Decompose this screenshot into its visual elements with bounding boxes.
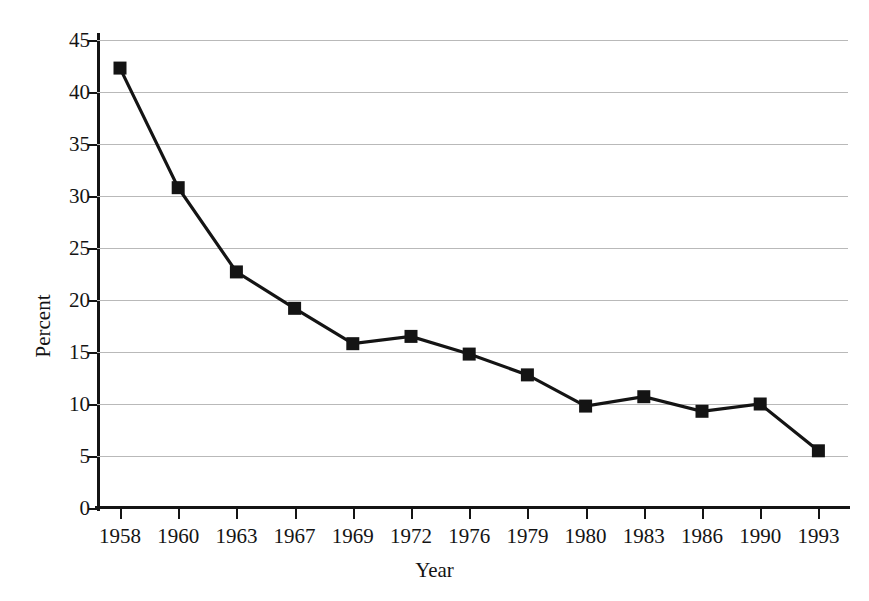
line-chart: Percent 05101520253035404519581960196319… bbox=[0, 0, 869, 601]
x-axis-tick-label: 1960 bbox=[157, 526, 199, 547]
data-point-marker bbox=[288, 302, 301, 315]
x-axis-tick-mark bbox=[353, 508, 355, 519]
data-point-marker bbox=[230, 265, 243, 278]
data-line bbox=[120, 68, 818, 451]
y-axis-tick-label: 10 bbox=[69, 394, 90, 415]
data-point-marker bbox=[812, 444, 825, 457]
x-axis-tick-label: 1963 bbox=[215, 526, 257, 547]
x-axis-tick-label: 1972 bbox=[390, 526, 432, 547]
y-axis-title: Percent bbox=[31, 266, 56, 336]
y-axis-tick-label: 40 bbox=[69, 82, 90, 103]
data-point-marker bbox=[346, 337, 359, 350]
data-point-marker bbox=[172, 181, 185, 194]
data-point-marker bbox=[579, 400, 592, 413]
data-point-marker bbox=[405, 330, 418, 343]
x-axis-tick-label: 1976 bbox=[448, 526, 490, 547]
x-axis-title: Year bbox=[0, 558, 869, 583]
x-axis-tick-mark bbox=[760, 508, 762, 519]
x-axis-tick-mark bbox=[120, 508, 122, 519]
data-point-marker bbox=[696, 405, 709, 418]
x-axis-tick-mark bbox=[818, 508, 820, 519]
x-axis-tick-mark bbox=[702, 508, 704, 519]
x-axis-tick-mark bbox=[527, 508, 529, 519]
y-axis-tick-label: 30 bbox=[69, 186, 90, 207]
y-axis-title-label: Percent bbox=[31, 266, 56, 386]
y-axis-tick-label: 45 bbox=[69, 30, 90, 51]
x-axis-tick-label: 1980 bbox=[565, 526, 607, 547]
data-point-marker bbox=[637, 390, 650, 403]
x-axis-tick-mark bbox=[295, 508, 297, 519]
x-axis-tick-mark bbox=[236, 508, 238, 519]
y-axis-tick-label: 5 bbox=[80, 446, 91, 467]
x-axis-tick-label: 1993 bbox=[797, 526, 839, 547]
x-axis-tick-mark bbox=[411, 508, 413, 519]
x-axis-tick-mark bbox=[586, 508, 588, 519]
y-axis-tick-label: 15 bbox=[69, 342, 90, 363]
data-point-marker bbox=[521, 368, 534, 381]
x-axis-tick-label: 1969 bbox=[332, 526, 374, 547]
x-axis-tick-mark bbox=[469, 508, 471, 519]
x-axis-tick-label: 1967 bbox=[274, 526, 316, 547]
x-axis-tick-mark bbox=[644, 508, 646, 519]
x-axis-tick-label: 1986 bbox=[681, 526, 723, 547]
x-axis-tick-label: 1958 bbox=[99, 526, 141, 547]
y-axis-tick-label: 35 bbox=[69, 134, 90, 155]
y-axis-tick-label: 0 bbox=[80, 498, 91, 519]
x-axis-tick-label: 1983 bbox=[623, 526, 665, 547]
x-axis-tick-mark bbox=[178, 508, 180, 519]
data-point-marker bbox=[114, 62, 127, 75]
series-line bbox=[97, 40, 848, 508]
data-point-marker bbox=[463, 348, 476, 361]
data-point-marker bbox=[754, 398, 767, 411]
y-axis-tick-label: 25 bbox=[69, 238, 90, 259]
y-axis-tick-label: 20 bbox=[69, 290, 90, 311]
plot-area: 0510152025303540451958196019631967196919… bbox=[97, 40, 848, 508]
x-axis-tick-label: 1979 bbox=[506, 526, 548, 547]
x-axis-tick-label: 1990 bbox=[739, 526, 781, 547]
